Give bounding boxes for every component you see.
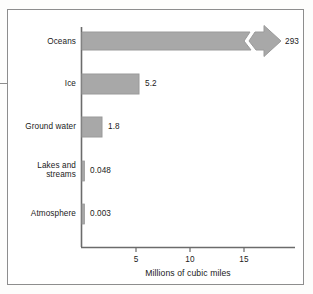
bar-ice (82, 74, 139, 94)
bar-lakes-and-streams (82, 161, 85, 181)
x-tick-label-15: 15 (232, 255, 256, 264)
figure: Oceans Ice Ground water Lakes and stream… (0, 0, 313, 294)
bar-value-oceans: 293 (285, 37, 299, 46)
bar-atmosphere (82, 204, 85, 224)
bar-oceans-arrowhead (249, 26, 281, 57)
bar-label-oceans: Oceans (47, 37, 76, 46)
bar-value-lakes-and-streams: 0.048 (90, 166, 111, 175)
bar-label-atmosphere: Atmosphere (31, 209, 76, 218)
bar-value-ground-water: 1.8 (108, 122, 120, 131)
bar-value-atmosphere: 0.003 (90, 209, 111, 218)
bar-value-ice: 5.2 (145, 79, 157, 88)
bar-label-lakes-and-streams: Lakes and streams (37, 161, 76, 180)
bar-label-ground-water: Ground water (25, 122, 76, 131)
bar-oceans-body (82, 32, 251, 50)
bar-oceans (82, 26, 281, 57)
bar-label-ice: Ice (65, 79, 76, 88)
x-tick-label-5: 5 (124, 255, 148, 264)
bar-ground-water (82, 117, 102, 137)
x-tick-label-10: 10 (178, 255, 202, 264)
x-axis-title: Millions of cubic miles (81, 268, 295, 278)
